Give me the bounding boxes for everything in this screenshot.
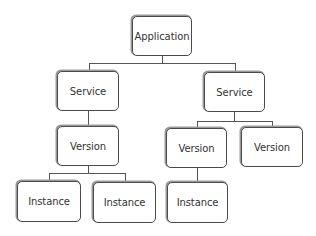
node-version-right-b: Version: [241, 127, 303, 167]
node-version-left: Version: [57, 126, 119, 166]
node-instance-left-b: Instance: [93, 182, 156, 223]
node-instance-left-a: Instance: [17, 181, 81, 222]
node-application: Application: [132, 16, 192, 56]
hierarchy-diagram: Application Service Service Version Vers…: [0, 0, 316, 236]
node-version-right-a: Version: [166, 128, 227, 168]
node-instance-right: Instance: [167, 182, 228, 223]
node-service-right: Service: [204, 72, 265, 112]
node-service-left: Service: [57, 71, 119, 111]
